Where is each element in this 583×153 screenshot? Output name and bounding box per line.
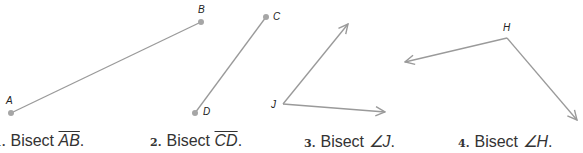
segment-cd	[195, 17, 266, 113]
label-j: J	[271, 99, 276, 110]
label-h: H	[503, 22, 510, 33]
label-a: A	[6, 95, 13, 106]
ray-j-upper	[283, 24, 348, 104]
segment-ab	[11, 22, 201, 113]
label-d: D	[203, 106, 210, 117]
label-c: C	[273, 11, 280, 22]
angle-name: ∠J	[369, 133, 391, 150]
ray-h-left	[405, 38, 507, 62]
point-d	[192, 110, 198, 116]
angle-name: ∠H	[523, 133, 549, 150]
exercise-2: 2.Bisect CD.	[150, 132, 242, 150]
segment-name: CD	[215, 132, 238, 149]
point-c	[263, 14, 269, 20]
segment-name: AB	[59, 132, 80, 149]
exercise-4: 4.Bisect ∠H.	[458, 132, 553, 151]
exercise-number: 3.	[304, 137, 315, 150]
geometry-figure	[0, 0, 583, 153]
exercise-1: 1.Bisect AB.	[0, 132, 84, 150]
point-a	[8, 110, 14, 116]
point-b	[198, 19, 204, 25]
exercise-3: 3.Bisect ∠J.	[304, 132, 395, 151]
ray-h-right	[507, 38, 577, 120]
exercise-number: 4.	[458, 137, 469, 150]
exercise-number: 1.	[0, 136, 5, 149]
label-b: B	[198, 4, 205, 15]
exercise-number: 2.	[150, 136, 161, 149]
ray-j-lower	[283, 104, 385, 112]
